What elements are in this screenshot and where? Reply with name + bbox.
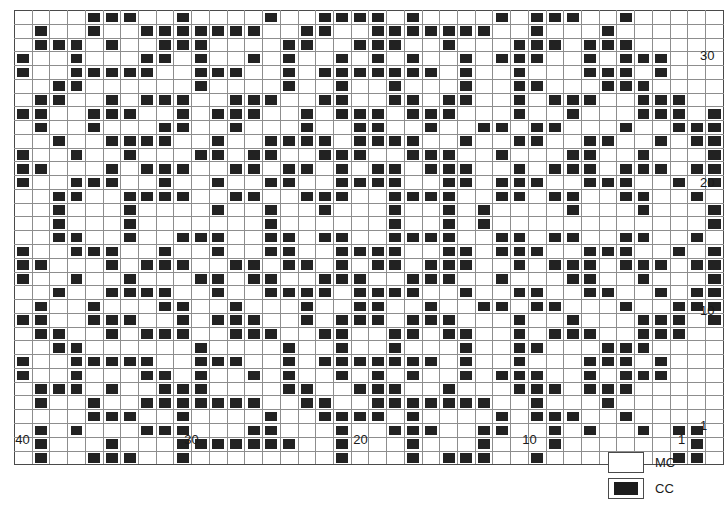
chart-cell[interactable] bbox=[652, 134, 670, 148]
chart-cell[interactable] bbox=[351, 121, 369, 135]
chart-cell[interactable] bbox=[174, 24, 192, 38]
chart-cell[interactable] bbox=[68, 258, 86, 272]
chart-cell[interactable] bbox=[457, 300, 475, 314]
chart-cell[interactable] bbox=[688, 272, 706, 286]
chart-cell[interactable] bbox=[652, 79, 670, 93]
chart-cell[interactable] bbox=[85, 189, 103, 203]
chart-cell[interactable] bbox=[263, 327, 281, 341]
chart-cell[interactable] bbox=[316, 451, 334, 465]
chart-cell[interactable] bbox=[404, 11, 422, 25]
chart-cell[interactable] bbox=[192, 245, 210, 259]
chart-cell[interactable] bbox=[564, 203, 582, 217]
chart-cell[interactable] bbox=[351, 258, 369, 272]
chart-cell[interactable] bbox=[599, 189, 617, 203]
chart-cell[interactable] bbox=[103, 134, 121, 148]
chart-cell[interactable] bbox=[156, 79, 174, 93]
chart-cell[interactable] bbox=[32, 52, 50, 66]
chart-cell[interactable] bbox=[298, 327, 316, 341]
chart-cell[interactable] bbox=[635, 11, 653, 25]
chart-cell[interactable] bbox=[333, 423, 351, 437]
chart-cell[interactable] bbox=[156, 286, 174, 300]
chart-cell[interactable] bbox=[333, 79, 351, 93]
chart-cell[interactable] bbox=[670, 38, 688, 52]
chart-cell[interactable] bbox=[85, 396, 103, 410]
chart-cell[interactable] bbox=[351, 107, 369, 121]
chart-cell[interactable] bbox=[546, 231, 564, 245]
chart-cell[interactable] bbox=[493, 355, 511, 369]
chart-cell[interactable] bbox=[387, 217, 405, 231]
chart-cell[interactable] bbox=[582, 162, 600, 176]
chart-cell[interactable] bbox=[263, 368, 281, 382]
chart-cell[interactable] bbox=[68, 231, 86, 245]
chart-cell[interactable] bbox=[245, 410, 263, 424]
chart-cell[interactable] bbox=[493, 313, 511, 327]
chart-cell[interactable] bbox=[635, 258, 653, 272]
chart-cell[interactable] bbox=[564, 189, 582, 203]
chart-cell[interactable] bbox=[422, 134, 440, 148]
chart-cell[interactable] bbox=[68, 24, 86, 38]
chart-cell[interactable] bbox=[298, 231, 316, 245]
chart-cell[interactable] bbox=[440, 355, 458, 369]
chart-cell[interactable] bbox=[440, 38, 458, 52]
chart-cell[interactable] bbox=[121, 396, 139, 410]
chart-cell[interactable] bbox=[227, 231, 245, 245]
chart-cell[interactable] bbox=[528, 341, 546, 355]
chart-cell[interactable] bbox=[475, 189, 493, 203]
chart-cell[interactable] bbox=[635, 286, 653, 300]
chart-cell[interactable] bbox=[564, 107, 582, 121]
chart-cell[interactable] bbox=[85, 52, 103, 66]
chart-cell[interactable] bbox=[404, 451, 422, 465]
chart-cell[interactable] bbox=[316, 258, 334, 272]
chart-cell[interactable] bbox=[688, 451, 706, 465]
chart-cell[interactable] bbox=[68, 134, 86, 148]
chart-cell[interactable] bbox=[475, 355, 493, 369]
chart-cell[interactable] bbox=[15, 258, 33, 272]
chart-cell[interactable] bbox=[369, 93, 387, 107]
chart-cell[interactable] bbox=[635, 66, 653, 80]
chart-cell[interactable] bbox=[15, 162, 33, 176]
chart-cell[interactable] bbox=[174, 286, 192, 300]
chart-cell[interactable] bbox=[245, 396, 263, 410]
chart-cell[interactable] bbox=[475, 24, 493, 38]
chart-cell[interactable] bbox=[387, 410, 405, 424]
chart-cell[interactable] bbox=[706, 162, 724, 176]
chart-cell[interactable] bbox=[511, 382, 529, 396]
chart-cell[interactable] bbox=[227, 410, 245, 424]
chart-cell[interactable] bbox=[564, 451, 582, 465]
chart-cell[interactable] bbox=[333, 410, 351, 424]
chart-cell[interactable] bbox=[298, 272, 316, 286]
chart-cell[interactable] bbox=[511, 52, 529, 66]
chart-grid-table[interactable] bbox=[14, 10, 724, 465]
chart-cell[interactable] bbox=[706, 410, 724, 424]
chart-cell[interactable] bbox=[280, 355, 298, 369]
chart-cell[interactable] bbox=[706, 203, 724, 217]
chart-cell[interactable] bbox=[369, 258, 387, 272]
chart-cell[interactable] bbox=[121, 258, 139, 272]
chart-cell[interactable] bbox=[528, 410, 546, 424]
chart-cell[interactable] bbox=[333, 148, 351, 162]
chart-cell[interactable] bbox=[528, 313, 546, 327]
chart-cell[interactable] bbox=[298, 313, 316, 327]
chart-cell[interactable] bbox=[422, 66, 440, 80]
chart-cell[interactable] bbox=[617, 121, 635, 135]
chart-cell[interactable] bbox=[68, 368, 86, 382]
chart-cell[interactable] bbox=[599, 93, 617, 107]
chart-cell[interactable] bbox=[298, 162, 316, 176]
chart-cell[interactable] bbox=[32, 313, 50, 327]
chart-cell[interactable] bbox=[546, 66, 564, 80]
chart-cell[interactable] bbox=[528, 300, 546, 314]
chart-cell[interactable] bbox=[192, 410, 210, 424]
chart-cell[interactable] bbox=[546, 258, 564, 272]
chart-cell[interactable] bbox=[245, 258, 263, 272]
chart-cell[interactable] bbox=[369, 11, 387, 25]
chart-cell[interactable] bbox=[174, 217, 192, 231]
chart-cell[interactable] bbox=[156, 148, 174, 162]
chart-cell[interactable] bbox=[564, 368, 582, 382]
chart-cell[interactable] bbox=[192, 189, 210, 203]
chart-cell[interactable] bbox=[192, 341, 210, 355]
chart-cell[interactable] bbox=[475, 368, 493, 382]
chart-cell[interactable] bbox=[121, 341, 139, 355]
chart-cell[interactable] bbox=[121, 121, 139, 135]
chart-cell[interactable] bbox=[245, 176, 263, 190]
chart-cell[interactable] bbox=[404, 24, 422, 38]
